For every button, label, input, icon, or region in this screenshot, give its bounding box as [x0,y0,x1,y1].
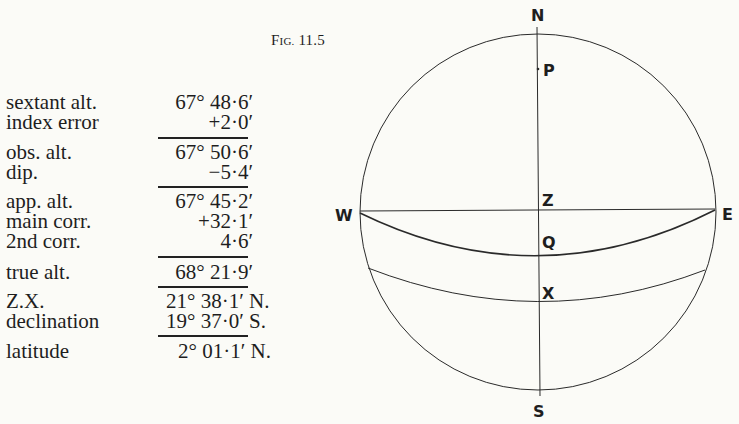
label-e: E [722,205,733,224]
celestial-sphere-diagram: N P Z W E Q X S [0,0,739,424]
meridian-line [537,27,540,396]
label-x: X [542,284,555,303]
sphere-outline [360,34,716,390]
pole-point [537,68,540,71]
horizon-line [360,209,715,211]
label-q: Q [542,233,556,252]
equator-arc [360,210,715,256]
label-z: Z [542,191,554,210]
label-p: P [543,61,555,80]
label-w: W [335,206,353,225]
label-n: N [531,6,544,25]
label-s: S [533,402,545,421]
declination-arc [368,268,705,302]
